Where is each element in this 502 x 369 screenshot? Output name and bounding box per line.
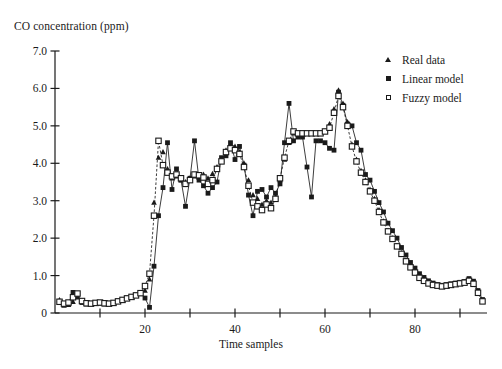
data-point-marker bbox=[187, 177, 192, 182]
data-point-marker bbox=[309, 195, 314, 200]
data-point-marker bbox=[399, 251, 404, 256]
data-point-marker bbox=[331, 110, 336, 115]
data-point-marker bbox=[385, 229, 390, 234]
data-point-marker bbox=[412, 270, 417, 275]
y-tick-label: 5.0 bbox=[13, 120, 47, 132]
data-point-marker bbox=[241, 164, 246, 169]
data-point-marker bbox=[376, 209, 381, 214]
data-point-marker bbox=[354, 159, 359, 164]
data-point-marker bbox=[323, 140, 328, 145]
data-point-marker bbox=[210, 177, 215, 182]
y-tick-label: 0 bbox=[13, 307, 47, 319]
data-point-marker bbox=[156, 138, 161, 143]
data-point-marker bbox=[251, 213, 256, 218]
data-point-marker bbox=[286, 138, 291, 143]
data-point-marker bbox=[165, 140, 170, 145]
legend-label: Real data bbox=[398, 54, 445, 66]
x-tick-label: 40 bbox=[220, 323, 250, 335]
data-point-marker bbox=[363, 179, 368, 184]
legend-item-real-data: Real data bbox=[378, 50, 464, 69]
y-tick-label: 2.0 bbox=[13, 232, 47, 244]
data-point-marker bbox=[237, 151, 242, 156]
y-tick-label: 1.0 bbox=[13, 270, 47, 282]
data-point-marker bbox=[390, 236, 395, 241]
filled-triangle-icon bbox=[378, 57, 398, 62]
x-tick-label: 80 bbox=[400, 323, 430, 335]
chart-figure: CO concentration (ppm) 01.02.03.04.05.06… bbox=[0, 0, 502, 369]
y-tick-label: 6.0 bbox=[13, 82, 47, 94]
data-point-marker bbox=[471, 281, 476, 286]
data-point-marker bbox=[367, 189, 372, 194]
data-point-marker bbox=[161, 185, 166, 190]
data-point-marker bbox=[219, 159, 224, 164]
data-point-marker bbox=[359, 148, 364, 153]
y-tick-label: 4.0 bbox=[13, 157, 47, 169]
data-point-marker bbox=[475, 290, 480, 295]
data-point-marker bbox=[345, 123, 350, 128]
data-point-marker bbox=[327, 125, 332, 130]
data-point-marker bbox=[206, 191, 211, 196]
data-point-marker bbox=[372, 198, 377, 203]
data-point-marker bbox=[305, 165, 310, 170]
data-point-marker bbox=[358, 170, 363, 175]
data-point-marker bbox=[332, 148, 337, 153]
data-point-marker bbox=[246, 183, 251, 188]
chart-legend: Real data Linear model Fuzzy model bbox=[378, 50, 464, 107]
data-point-marker bbox=[268, 206, 273, 211]
data-point-marker bbox=[273, 196, 278, 201]
y-tick-label: 7.0 bbox=[13, 45, 47, 57]
data-point-marker bbox=[142, 283, 147, 288]
data-point-marker bbox=[214, 166, 219, 171]
x-tick-label: 20 bbox=[130, 323, 160, 335]
data-point-marker bbox=[381, 220, 386, 225]
legend-item-linear-model: Linear model bbox=[378, 69, 464, 88]
data-point-marker bbox=[314, 138, 319, 143]
data-point-marker bbox=[394, 244, 399, 249]
data-point-marker bbox=[160, 149, 166, 154]
data-point-marker bbox=[178, 176, 183, 181]
data-point-marker bbox=[260, 187, 265, 192]
data-point-marker bbox=[233, 157, 238, 162]
data-point-marker bbox=[264, 195, 269, 200]
data-point-marker bbox=[192, 138, 197, 143]
data-point-marker bbox=[287, 101, 292, 106]
data-point-marker bbox=[66, 300, 71, 305]
data-point-marker bbox=[183, 204, 188, 209]
data-point-marker bbox=[318, 138, 323, 143]
data-point-marker bbox=[138, 290, 143, 295]
data-point-marker bbox=[259, 207, 264, 212]
data-point-marker bbox=[228, 140, 233, 145]
data-point-marker bbox=[336, 93, 341, 98]
data-point-marker bbox=[340, 104, 345, 109]
data-point-marker bbox=[75, 291, 80, 296]
x-tick-label: 60 bbox=[310, 323, 340, 335]
data-point-marker bbox=[250, 192, 256, 197]
data-point-marker bbox=[277, 176, 282, 181]
data-point-marker bbox=[201, 175, 206, 180]
data-point-marker bbox=[255, 189, 260, 194]
data-point-marker bbox=[282, 155, 287, 160]
data-point-marker bbox=[349, 144, 354, 149]
data-point-marker bbox=[174, 167, 179, 172]
open-square-icon bbox=[378, 95, 398, 100]
data-point-marker bbox=[147, 271, 152, 276]
data-point-marker bbox=[246, 193, 251, 198]
data-point-marker bbox=[273, 191, 278, 196]
legend-item-fuzzy-model: Fuzzy model bbox=[378, 88, 464, 107]
data-point-marker bbox=[269, 185, 274, 190]
data-point-marker bbox=[152, 264, 157, 269]
y-tick-label: 3.0 bbox=[13, 195, 47, 207]
x-axis-title: Time samples bbox=[0, 338, 502, 350]
data-point-marker bbox=[408, 265, 413, 270]
filled-square-icon bbox=[378, 76, 398, 81]
data-point-marker bbox=[147, 305, 152, 310]
legend-label: Fuzzy model bbox=[398, 92, 462, 104]
data-point-marker bbox=[170, 187, 175, 192]
data-point-marker bbox=[403, 259, 408, 264]
data-point-marker bbox=[480, 299, 485, 304]
data-point-marker bbox=[151, 213, 156, 218]
data-point-marker bbox=[160, 162, 165, 167]
data-point-marker bbox=[278, 181, 283, 186]
data-point-marker bbox=[151, 200, 157, 205]
data-point-marker bbox=[327, 146, 332, 151]
